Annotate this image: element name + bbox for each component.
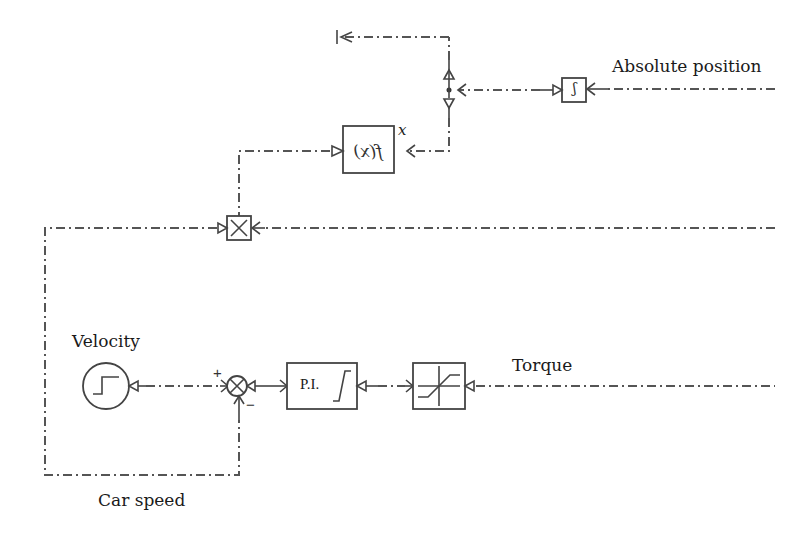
multiplier-inputs	[45, 222, 775, 475]
function-block[interactable]: f(x)	[343, 126, 394, 173]
integrator-output	[458, 84, 562, 96]
absolute-position-signal	[587, 83, 775, 95]
label-torque: Torque	[512, 355, 572, 375]
label-velocity: Velocity	[72, 331, 140, 351]
function-output	[234, 146, 343, 224]
pi-controller-label: P.I.	[300, 376, 319, 393]
block-diagram-canvas: .dash { stroke: #555; stroke-width: 2; f…	[0, 0, 811, 537]
multiplier-block[interactable]	[227, 216, 251, 240]
label-absolute-position: Absolute position	[612, 56, 762, 76]
step-source[interactable]	[83, 363, 228, 409]
sum-plus-sign: +	[213, 364, 222, 381]
sum-junction[interactable]	[227, 376, 287, 420]
svg-text:f(x): f(x)	[353, 141, 384, 161]
label-x-input: x	[398, 121, 406, 139]
integrator-block[interactable]: ʃ	[562, 78, 586, 102]
label-car-speed: Car speed	[98, 490, 185, 510]
saturation-block[interactable]	[413, 363, 775, 409]
sum-minus-sign: −	[246, 396, 255, 413]
